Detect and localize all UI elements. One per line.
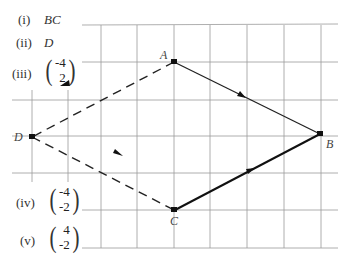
vector-diagram: A B C D (i) BC (ii) D (iii) ( -42 ) (iv)… bbox=[0, 0, 344, 259]
answer-iii-vector: ( -42 ) bbox=[44, 55, 77, 85]
answer-v-number: (v) bbox=[20, 233, 35, 249]
label-point-b: B bbox=[326, 137, 333, 152]
point-b-marker bbox=[317, 131, 323, 136]
answer-ii-number: (ii) bbox=[16, 35, 32, 51]
answer-ii-value: D bbox=[44, 35, 53, 51]
label-point-c: C bbox=[170, 214, 178, 229]
label-point-d: D bbox=[14, 130, 23, 145]
point-d-marker bbox=[29, 134, 35, 139]
point-c-marker bbox=[171, 207, 177, 212]
answer-iv-vector: ( -4-2 ) bbox=[48, 184, 81, 214]
answer-i-number: (i) bbox=[18, 12, 30, 28]
arrow-icon bbox=[113, 149, 123, 156]
answer-i-value: BC bbox=[44, 12, 61, 28]
arrow-icon bbox=[237, 91, 246, 98]
answer-v-vector: ( 4-2 ) bbox=[48, 222, 81, 252]
answer-iii-number: (iii) bbox=[12, 66, 32, 82]
answer-iv-number: (iv) bbox=[16, 195, 35, 211]
point-a-marker bbox=[171, 59, 177, 64]
label-point-a: A bbox=[160, 48, 167, 63]
